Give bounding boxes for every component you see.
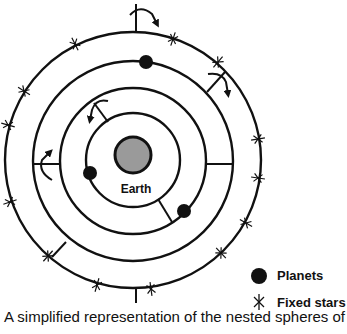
planet	[139, 55, 153, 69]
rotation-arrow-left	[41, 152, 52, 180]
rotation-arrow-top	[130, 9, 157, 24]
nested-spheres-diagram: Earth	[0, 0, 347, 334]
rotation-arrow-upper-right	[208, 74, 228, 94]
connector-upper-left	[94, 103, 108, 122]
fixed-star-icon	[146, 282, 156, 297]
figure-caption: A simplified representation of the neste…	[4, 308, 344, 325]
fixed-star-icon	[210, 54, 225, 70]
connector-lower-right	[158, 199, 172, 222]
connector-lower-left	[52, 242, 66, 257]
earth	[115, 137, 151, 173]
legend-planets-label: Planets	[277, 268, 323, 283]
planet	[177, 204, 191, 218]
planet	[83, 166, 97, 180]
legend-planet-icon	[251, 268, 267, 284]
earth-label: Earth	[121, 182, 152, 196]
connector-upper-right	[207, 72, 225, 92]
